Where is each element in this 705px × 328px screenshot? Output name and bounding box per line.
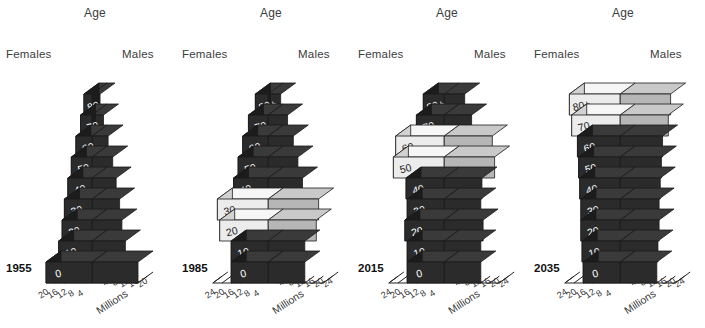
units-label-1985: Millions	[270, 287, 306, 316]
axis-tick-label-female-8: 8	[594, 288, 604, 299]
axis-tick-female-24	[565, 276, 574, 283]
axis-tick-label-female-12: 12	[407, 287, 421, 301]
bar-female-2015-0-front-face	[407, 262, 444, 283]
units-label-2035: Millions	[622, 287, 658, 316]
bar-female-2035-0-front-face	[583, 262, 620, 283]
population-pyramid-figure: 201612844812162080+706050403020100Millio…	[0, 0, 705, 328]
bar-female-1985-0-front-face	[231, 262, 268, 283]
males-header-2015: Males	[474, 48, 506, 60]
axis-tick-label-female-12: 12	[231, 287, 245, 301]
axis-tick-label-female-4: 4	[75, 288, 85, 299]
females-header-1985: Females	[182, 48, 228, 60]
females-header-2015: Females	[358, 48, 404, 60]
males-header-1985: Males	[298, 48, 330, 60]
females-header-1955: Females	[6, 48, 52, 60]
males-header-2035: Males	[650, 48, 682, 60]
pyramid-panel-2035: 2420161284481216202480+706050403020100Mi…	[528, 0, 704, 328]
axis-tick-label-male-24: 24	[673, 276, 687, 290]
males-header-1955: Males	[122, 48, 154, 60]
pyramid-panel-2015: 2420161284481216202480+706050403020100Mi…	[352, 0, 528, 328]
females-header-2035: Females	[534, 48, 580, 60]
bar-male-2015-0-front-face	[444, 262, 481, 283]
age-header-1955: Age	[84, 6, 106, 20]
bars-2015: 80+706050403020100	[393, 83, 509, 283]
age-header-2035: Age	[612, 6, 634, 20]
pyramid-panel-1955: 201612844812162080+706050403020100Millio…	[0, 0, 176, 328]
axis-tick-female-20	[398, 276, 407, 283]
axis-tick-label-female-12: 12	[55, 287, 69, 301]
pyramid-panel-1985: 2420161284481216202480+706050403020100Mi…	[176, 0, 352, 328]
axis-tick-label-female-4: 4	[427, 288, 437, 299]
age-header-1985: Age	[260, 6, 282, 20]
axis-tick-label-male-24: 24	[497, 276, 511, 290]
age-header-2015: Age	[436, 6, 458, 20]
year-label-2035: 2035	[534, 262, 560, 274]
bars-2035: 80+706050403020100	[569, 83, 685, 283]
axis-tick-label-female-8: 8	[242, 288, 252, 299]
axis-tick-label-female-8: 8	[418, 288, 428, 299]
axis-tick-female-20	[574, 276, 583, 283]
axis-tick-label-female-8: 8	[66, 288, 76, 299]
bar-male-1955-0-front-face	[92, 262, 138, 283]
units-label-1955: Millions	[94, 287, 130, 316]
axis-tick-female-24	[213, 276, 222, 283]
axis-tick-label-male-24: 24	[321, 276, 335, 290]
axis-tick-label-female-4: 4	[603, 288, 613, 299]
bar-male-2035-0-front-face	[620, 262, 657, 283]
axis-tick-label-female-12: 12	[583, 287, 597, 301]
units-label-2015: Millions	[446, 287, 482, 316]
bars-1985: 80+706050403020100	[217, 83, 333, 283]
year-label-1985: 1985	[182, 262, 208, 274]
bars-1955: 80+706050403020100	[46, 83, 153, 283]
year-label-1955: 1955	[6, 262, 32, 274]
axis-tick-label-female-4: 4	[251, 288, 261, 299]
axis-tick-female-24	[389, 276, 398, 283]
year-label-2015: 2015	[358, 262, 384, 274]
axis-tick-female-20	[222, 276, 231, 283]
bar-male-1985-0-front-face	[268, 262, 305, 283]
bar-female-1955-0-front-face	[46, 262, 92, 283]
